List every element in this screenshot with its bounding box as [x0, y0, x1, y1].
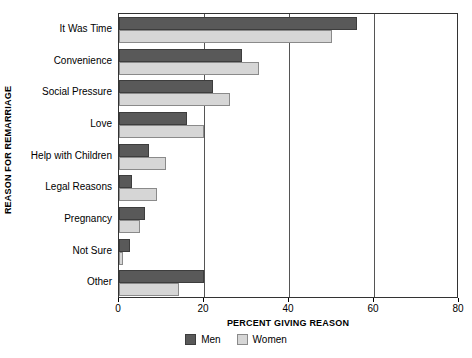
bar-men-legal-reasons — [119, 175, 132, 188]
category-label-not-sure: Not Sure — [16, 245, 112, 256]
chart-legend: MenWomen — [0, 334, 472, 345]
x-tick-label-20: 20 — [197, 303, 208, 314]
bar-men-convenience — [119, 49, 242, 62]
plot-area — [118, 13, 458, 298]
bar-men-love — [119, 112, 187, 125]
x-tick-60 — [373, 298, 374, 302]
bar-women-not-sure — [119, 252, 123, 265]
legend-item-men[interactable]: Men — [185, 334, 220, 345]
x-tick-label-80: 80 — [452, 303, 463, 314]
gridline-40 — [289, 14, 290, 297]
gridline-60 — [374, 14, 375, 297]
bar-women-it-was-time — [119, 30, 332, 43]
bar-women-love — [119, 125, 204, 138]
bar-men-help-with-children — [119, 144, 149, 157]
x-axis: 020406080 — [118, 298, 458, 320]
bar-women-help-with-children — [119, 157, 166, 170]
category-label-it-was-time: It Was Time — [16, 23, 112, 34]
category-axis-labels: It Was TimeConvenienceSocial PressureLov… — [16, 13, 112, 298]
legend-swatch-women-icon — [237, 334, 248, 345]
bar-men-other — [119, 270, 204, 283]
bar-men-social-pressure — [119, 80, 213, 93]
x-tick-label-60: 60 — [367, 303, 378, 314]
x-tick-label-0: 0 — [115, 303, 121, 314]
legend-item-women[interactable]: Women — [237, 334, 287, 345]
category-label-help-with-children: Help with Children — [16, 150, 112, 161]
bar-men-pregnancy — [119, 207, 145, 220]
bar-women-convenience — [119, 62, 259, 75]
y-axis-title-text: REASON FOR REMARRIAGE — [3, 86, 13, 214]
x-tick-0 — [118, 298, 119, 302]
legend-label-men: Men — [201, 334, 220, 345]
bar-women-legal-reasons — [119, 188, 157, 201]
x-axis-title: PERCENT GIVING REASON — [118, 318, 458, 328]
legend-label-women: Women — [253, 334, 287, 345]
x-tick-40 — [288, 298, 289, 302]
bar-chart: REASON FOR REMARRIAGE It Was TimeConveni… — [0, 0, 472, 358]
category-label-love: Love — [16, 118, 112, 129]
category-label-social-pressure: Social Pressure — [16, 86, 112, 97]
bar-men-not-sure — [119, 239, 130, 252]
category-label-other: Other — [16, 276, 112, 287]
x-tick-20 — [203, 298, 204, 302]
category-label-legal-reasons: Legal Reasons — [16, 181, 112, 192]
x-tick-label-40: 40 — [282, 303, 293, 314]
bar-women-other — [119, 283, 179, 296]
y-axis-title: REASON FOR REMARRIAGE — [0, 0, 16, 300]
x-tick-80 — [458, 298, 459, 302]
category-label-convenience: Convenience — [16, 55, 112, 66]
legend-swatch-men-icon — [185, 334, 196, 345]
bar-men-it-was-time — [119, 17, 357, 30]
category-label-pregnancy: Pregnancy — [16, 213, 112, 224]
bar-women-pregnancy — [119, 220, 140, 233]
bar-women-social-pressure — [119, 93, 230, 106]
